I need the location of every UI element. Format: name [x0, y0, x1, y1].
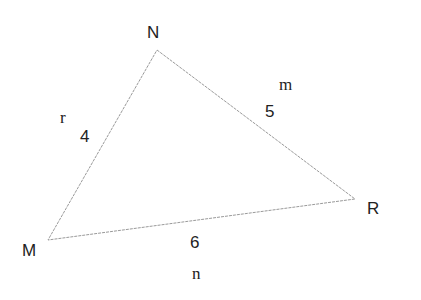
triangle-MNR: [48, 50, 355, 240]
triangle-diagram: N M R r 4 m 5 6 n: [0, 0, 421, 300]
side-length-n: 6: [190, 233, 199, 252]
side-name-m: m: [279, 75, 292, 94]
side-length-r: 4: [80, 127, 89, 146]
vertex-label-M: M: [22, 241, 36, 260]
side-name-r: r: [60, 108, 66, 127]
side-name-n: n: [192, 264, 201, 283]
side-length-m: 5: [265, 102, 274, 121]
vertex-label-N: N: [147, 23, 159, 42]
vertex-label-R: R: [367, 199, 379, 218]
